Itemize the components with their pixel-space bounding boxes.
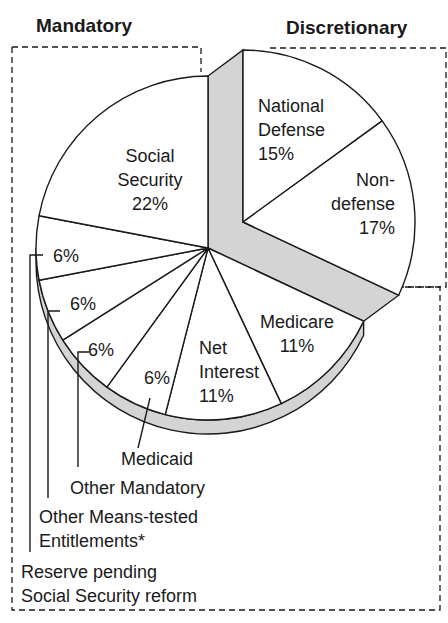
slice-label-national-defense: National <box>258 96 324 116</box>
slice-label-non-defense: Non- <box>356 170 395 190</box>
slice-label-social-security: Security <box>117 170 182 190</box>
slice-label-other-means-tested-entitlements: 6% <box>70 294 96 314</box>
callout-label-other-mandatory: Other Mandatory <box>70 478 205 498</box>
slice-label-other-mandatory: 6% <box>88 340 114 360</box>
slice-label-non-defense: 17% <box>359 218 395 238</box>
group-header-mandatory: Mandatory <box>36 15 133 36</box>
callout-label-other-means-tested-entitlements: Other Means-tested <box>39 507 198 527</box>
slice-label-social-security: Social <box>125 146 174 166</box>
callout-label-other-means-tested-entitlements: Entitlements* <box>39 531 145 551</box>
slice-label-reserve-pending-social-security-reform: 6% <box>53 246 79 266</box>
slice-label-net-interest: Net <box>199 338 227 358</box>
callout-label-reserve-pending-social-security-reform: Reserve pending <box>21 562 157 582</box>
slice-label-non-defense: defense <box>331 194 395 214</box>
slice-label-net-interest: 11% <box>199 386 234 406</box>
slice-label-social-security: 22% <box>132 194 168 214</box>
slice-label-medicare: Medicare <box>260 312 334 332</box>
slice-label-national-defense: Defense <box>258 120 325 140</box>
pie-chart: MedicaidOther MandatoryOther Means-teste… <box>0 0 448 623</box>
slice-label-net-interest: Interest <box>199 362 259 382</box>
callout-label-reserve-pending-social-security-reform: Social Security reform <box>21 586 197 606</box>
slice-label-medicare: 11% <box>280 336 315 356</box>
callout-label-medicaid: Medicaid <box>121 449 193 469</box>
slice-label-national-defense: 15% <box>258 144 294 164</box>
slice-label-medicaid: 6% <box>144 368 170 388</box>
group-header-discretionary: Discretionary <box>286 17 408 38</box>
